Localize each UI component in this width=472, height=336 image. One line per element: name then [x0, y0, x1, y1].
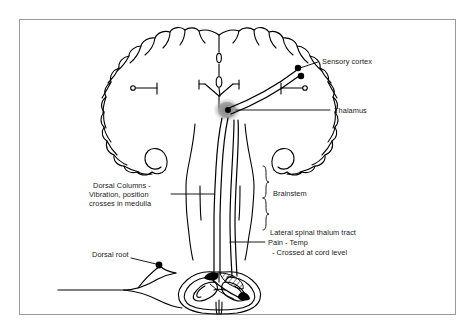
sensory-cortex-endpoint-dot-2 — [298, 73, 304, 79]
label-lateral-tract-line1: Lateral spinal thalum tract — [270, 228, 356, 237]
leader-dorsal-root — [131, 258, 156, 264]
label-brainstem: Brainstem — [273, 189, 307, 198]
label-lateral-tract-line2: Pain - Temp — [268, 238, 308, 247]
label-sensory-cortex: Sensory cortex — [322, 57, 372, 66]
spinal-cord-section — [178, 272, 260, 314]
label-dorsal-root: Dorsal root — [92, 250, 129, 259]
bracket-brainstem-lower — [263, 198, 269, 230]
bracket-brainstem-upper — [263, 166, 269, 198]
label-dorsal-columns-line1: Dorsal Columns - — [93, 181, 151, 190]
label-thalamus: Thalamus — [334, 106, 367, 115]
thalamus-relay-dot — [225, 107, 231, 113]
label-dorsal-columns-line2: Vibration, position — [89, 190, 149, 199]
label-lateral-tract-line3: - Crossed at cord level — [272, 248, 347, 257]
figure-page: Sensory cortex Thalamus Brainstem Dorsal… — [0, 0, 472, 336]
label-dorsal-columns-line3: crosses in medulla — [89, 199, 152, 208]
dorsal-root-ganglion-dot — [156, 262, 163, 269]
peripheral-nerve — [58, 266, 182, 308]
anatomy-diagram: Sensory cortex Thalamus Brainstem Dorsal… — [0, 0, 472, 336]
